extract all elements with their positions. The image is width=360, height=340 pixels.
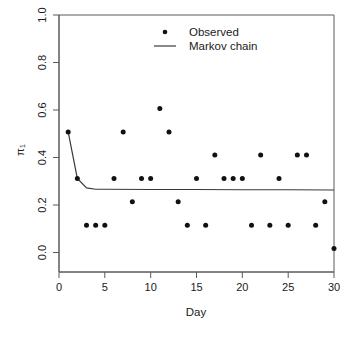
observed-points: [66, 106, 337, 251]
observed-point: [332, 246, 337, 251]
y-tick-label: 0.4: [36, 150, 48, 165]
observed-point: [139, 176, 144, 181]
x-axis-title: Day: [186, 306, 207, 318]
observed-point: [130, 199, 135, 204]
observed-point: [231, 176, 236, 181]
x-tick-label: 5: [102, 281, 108, 293]
observed-point: [194, 176, 199, 181]
legend-markov-label: Markov chain: [189, 40, 257, 52]
y-tick-labels: 1.0 0.8 0.6 0.4 0.2 0.0: [36, 7, 48, 260]
observed-point: [185, 223, 190, 228]
markov-chain-path: [68, 132, 334, 190]
observed-point: [203, 223, 208, 228]
x-tick-label: 20: [236, 281, 248, 293]
y-tick-label: 0.0: [36, 245, 48, 260]
x-tick-label: 15: [190, 281, 202, 293]
observed-point: [249, 223, 254, 228]
scatter-plot: 1.0 0.8 0.6 0.4 0.2 0.0 π₁ 0 5 10 15 20 …: [0, 0, 360, 340]
observed-point: [167, 129, 172, 134]
observed-point: [84, 223, 89, 228]
x-tick-label: 30: [328, 281, 340, 293]
y-axis-ticks: [53, 15, 59, 272]
x-tick-labels: 0 5 10 15 20 25 30: [56, 281, 340, 293]
observed-point: [66, 129, 71, 134]
x-axis-ticks: [59, 272, 334, 278]
observed-point: [313, 223, 318, 228]
observed-point: [258, 153, 263, 158]
observed-point: [157, 106, 162, 111]
observed-point: [93, 223, 98, 228]
chart-legend: Observed Markov chain: [154, 26, 257, 52]
y-tick-label: 0.2: [36, 197, 48, 212]
observed-point: [295, 153, 300, 158]
observed-point: [102, 223, 107, 228]
observed-point: [148, 176, 153, 181]
markov-chain-line: [68, 132, 334, 190]
chart-figure: 1.0 0.8 0.6 0.4 0.2 0.0 π₁ 0 5 10 15 20 …: [0, 0, 360, 340]
y-axis-title: π₁: [14, 144, 26, 156]
observed-point: [75, 176, 80, 181]
observed-point: [112, 176, 117, 181]
observed-point: [222, 176, 227, 181]
plot-frame: [59, 15, 334, 272]
observed-point: [240, 176, 245, 181]
x-tick-label: 0: [56, 281, 62, 293]
y-tick-label: 0.6: [36, 102, 48, 117]
legend-observed-label: Observed: [189, 26, 239, 38]
observed-point: [267, 223, 272, 228]
legend-observed-marker: [163, 30, 168, 35]
y-tick-label: 0.8: [36, 55, 48, 70]
y-tick-label: 1.0: [36, 7, 48, 22]
observed-point: [286, 223, 291, 228]
x-tick-label: 10: [145, 281, 157, 293]
observed-point: [277, 176, 282, 181]
observed-point: [322, 199, 327, 204]
observed-point: [304, 153, 309, 158]
x-tick-label: 25: [282, 281, 294, 293]
observed-point: [212, 153, 217, 158]
observed-point: [121, 129, 126, 134]
observed-point: [176, 199, 181, 204]
